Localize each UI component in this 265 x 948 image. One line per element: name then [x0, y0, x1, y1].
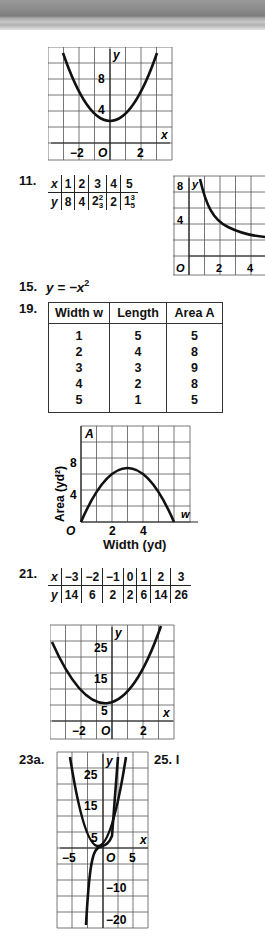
svg-text:15: 15 [84, 799, 98, 813]
cell: 3 [110, 360, 167, 376]
cell: 2 [103, 586, 124, 604]
svg-text:8: 8 [70, 456, 77, 470]
header-width: Width w [49, 303, 110, 324]
cell: 6 [82, 586, 103, 604]
cell: 8 [167, 376, 223, 392]
graph-problem-23a: y x 25 15 5 −10 −20 −5 O 5 [56, 751, 150, 941]
cell: 5 [167, 324, 223, 345]
fraction: 23 [99, 194, 103, 210]
problem-number-19: 19. [19, 301, 37, 316]
cell: 14 [151, 586, 171, 604]
svg-text:5: 5 [101, 704, 108, 718]
problem-11-table: x 1 2 3 4 5 y 8 4 223 2 135 [48, 175, 138, 210]
svg-text:−5: −5 [62, 851, 76, 865]
cell: 1 [137, 568, 151, 586]
cell: 2 [49, 344, 110, 360]
table-x-label: x [48, 175, 61, 193]
cell: −1 [103, 568, 124, 586]
svg-text:−2: −2 [72, 724, 86, 738]
cell: 5 [49, 392, 110, 413]
svg-text:4: 4 [247, 262, 254, 274]
cell: 5 [110, 324, 167, 345]
cell: 3 [89, 175, 107, 193]
cell: 3 [171, 568, 191, 586]
cell: 8 [167, 344, 223, 360]
svg-text:5: 5 [129, 851, 136, 865]
cell: 2 [123, 586, 137, 604]
table-row: 248 [49, 344, 223, 360]
svg-text:Area (yd²): Area (yd²) [53, 466, 67, 522]
svg-text:y: y [191, 178, 199, 190]
equation: y = −x [46, 280, 84, 295]
svg-text:y: y [114, 626, 123, 640]
svg-text:y: y [112, 48, 121, 62]
graph-problem-21: y x 25 15 5 −2 O 2 [50, 624, 176, 742]
denominator: 3 [99, 202, 103, 210]
svg-text:4: 4 [140, 524, 147, 538]
problem-number-25: 25. l [154, 752, 179, 767]
cell: 26 [171, 586, 191, 604]
cell: 2 [110, 376, 167, 392]
svg-text:O: O [101, 724, 111, 738]
problem-15-answer: y = −x2 [46, 278, 89, 295]
problem-number-11: 11. [19, 173, 36, 188]
cell: 4 [107, 175, 121, 193]
svg-text:O: O [98, 146, 108, 160]
header-area: Area A [167, 303, 223, 324]
whole: 2 [92, 194, 99, 208]
svg-text:8: 8 [177, 180, 183, 192]
svg-text:A: A [84, 427, 94, 441]
svg-text:25: 25 [84, 768, 98, 782]
table-x-label: x [48, 568, 61, 586]
svg-text:4: 4 [70, 488, 77, 502]
fraction: 35 [131, 194, 135, 210]
svg-text:2: 2 [216, 262, 222, 274]
cell: 4 [75, 193, 89, 211]
svg-text:4: 4 [98, 103, 105, 117]
svg-text:−20: −20 [106, 913, 127, 927]
cell: 5 [120, 175, 138, 193]
cell: 2 [151, 568, 171, 586]
svg-text:−2: −2 [70, 146, 84, 160]
svg-text:8: 8 [98, 72, 105, 86]
problem-21-table: x −3 −2 −1 0 1 2 3 y 14 6 2 2 6 14 26 [48, 568, 191, 603]
graph-problem-19-area: A w 8 4 O 2 4 Area (yd²) [50, 422, 200, 542]
table-y-label: y [48, 586, 61, 604]
graph-parabola-top: y x 8 4 −2 O 2 [48, 47, 174, 163]
whole: 1 [124, 194, 131, 208]
cell: 1 [49, 324, 110, 345]
cell: 0 [123, 568, 137, 586]
table-row: 339 [49, 360, 223, 376]
table-row: 515 [49, 392, 223, 413]
svg-text:2: 2 [137, 146, 144, 160]
header-length: Length [110, 303, 167, 324]
svg-text:25: 25 [94, 641, 108, 655]
cell: 6 [137, 586, 151, 604]
svg-text:4: 4 [177, 214, 184, 226]
svg-text:15: 15 [94, 672, 108, 686]
table-row: 428 [49, 376, 223, 392]
problem-number-21: 21. [19, 566, 37, 581]
svg-text:w: w [181, 508, 191, 520]
problem-19-table: Width w Length Area A 155 248 339 428 51… [48, 302, 223, 413]
svg-text:O: O [106, 851, 116, 865]
table-row: 155 [49, 324, 223, 345]
table-y-label: y [48, 193, 61, 211]
cell: 2 [75, 175, 89, 193]
cell-mixed-fraction: 223 [89, 193, 107, 211]
cell: 2 [107, 193, 121, 211]
svg-text:x: x [162, 706, 171, 720]
exponent: 2 [84, 278, 89, 288]
cell: −3 [61, 568, 82, 586]
svg-text:x: x [139, 833, 148, 847]
svg-text:5: 5 [91, 831, 98, 845]
svg-text:y: y [105, 754, 114, 768]
svg-text:2: 2 [109, 524, 116, 538]
svg-text:O: O [176, 262, 185, 274]
cell: 4 [49, 376, 110, 392]
cell: 3 [49, 360, 110, 376]
cell: 1 [61, 175, 75, 193]
x-axis-title: Width (yd) [103, 537, 166, 552]
svg-text:2: 2 [140, 724, 147, 738]
cell: 5 [167, 392, 223, 413]
